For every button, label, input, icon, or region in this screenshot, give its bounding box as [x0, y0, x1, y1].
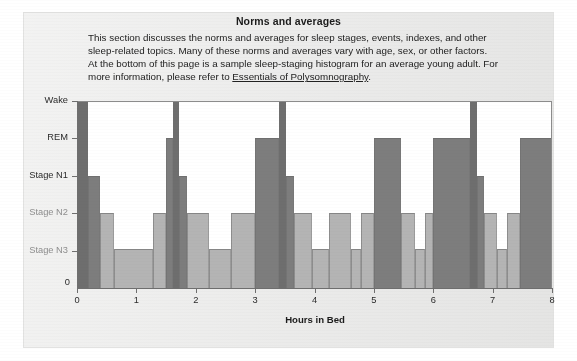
- x-axis-tick-mark: [493, 289, 494, 293]
- histogram-bar: [187, 213, 208, 288]
- histogram-bar: [401, 213, 415, 288]
- histogram-bar: [477, 176, 484, 288]
- histogram-bar: [100, 213, 114, 288]
- y-axis-line: [77, 101, 78, 289]
- x-axis-tick-label: 2: [184, 295, 208, 305]
- x-axis-tick-label: 6: [421, 295, 445, 305]
- x-axis-tick-label: 4: [303, 295, 327, 305]
- histogram-bar: [279, 101, 286, 288]
- histogram-bar: [209, 249, 232, 288]
- histogram-bar: [361, 213, 374, 288]
- x-axis-tick-label: 0: [65, 295, 89, 305]
- y-axis-tick-label: REM: [0, 132, 68, 142]
- y-axis-tick-mark: [72, 176, 77, 177]
- x-axis-tick-label: 8: [540, 295, 564, 305]
- histogram-bar: [153, 213, 166, 288]
- histogram-bar: [374, 138, 401, 288]
- histogram-bar: [312, 249, 329, 288]
- histogram-bar: [114, 249, 153, 288]
- x-axis-tick-label: 1: [124, 295, 148, 305]
- histogram-bar: [520, 138, 552, 288]
- y-axis-tick-mark: [72, 101, 77, 102]
- histogram-bar: [433, 138, 470, 288]
- y-axis-zero-label: 0: [48, 277, 70, 287]
- histogram-bar: [329, 213, 352, 288]
- y-axis-tick-label: Stage N1: [0, 170, 68, 180]
- x-axis-tick-mark: [315, 289, 316, 293]
- histogram-bar: [294, 213, 312, 288]
- histogram-bar: [286, 176, 294, 288]
- y-axis-tick-label: Wake: [0, 95, 68, 105]
- histogram-bar: [231, 213, 255, 288]
- y-axis-tick-mark: [72, 213, 77, 214]
- histogram-bar: [415, 249, 425, 288]
- y-axis-tick-label: Stage N2: [0, 207, 68, 217]
- x-axis-tick-label: 5: [362, 295, 386, 305]
- x-axis-tick-mark: [77, 289, 78, 293]
- sleep-staging-histogram: Stage N3Stage N2Stage N1REMWake 0 012345…: [0, 0, 577, 361]
- x-axis-tick-mark: [433, 289, 434, 293]
- x-axis-tick-mark: [136, 289, 137, 293]
- histogram-bar: [166, 138, 173, 288]
- histogram-bar: [255, 138, 279, 288]
- x-axis-tick-mark: [552, 289, 553, 293]
- histogram-bar: [484, 213, 497, 288]
- histogram-bar: [77, 101, 88, 288]
- histogram-bar: [470, 101, 477, 288]
- histogram-bar: [425, 213, 433, 288]
- page-root: Norms and averages This section discusse…: [0, 0, 577, 361]
- x-axis-tick-mark: [255, 289, 256, 293]
- x-axis-tick-mark: [196, 289, 197, 293]
- histogram-bar: [351, 249, 361, 288]
- y-axis-tick-mark: [72, 138, 77, 139]
- histogram-bar: [179, 176, 187, 288]
- histogram-bar: [507, 213, 520, 288]
- x-axis-tick-label: 3: [243, 295, 267, 305]
- histogram-bar: [497, 249, 507, 288]
- x-axis-tick-label: 7: [481, 295, 505, 305]
- histogram-bar: [88, 176, 100, 288]
- x-axis-tick-mark: [374, 289, 375, 293]
- y-axis-tick-label: Stage N3: [0, 245, 68, 255]
- y-axis-tick-mark: [72, 251, 77, 252]
- plot-area: [77, 101, 552, 288]
- x-axis-title: Hours in Bed: [77, 314, 553, 325]
